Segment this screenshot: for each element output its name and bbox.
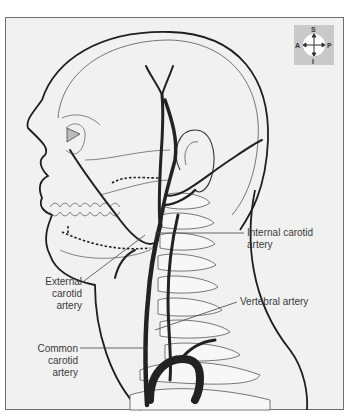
ear <box>176 130 214 192</box>
label-vertebral-artery: Vertebral artery <box>240 296 308 308</box>
zygomatic <box>85 150 170 195</box>
label-internal-carotid-artery: Internal carotid artery <box>247 227 313 251</box>
label-common-carotid-artery: Common carotid artery <box>26 343 78 379</box>
compass-inferior: I <box>312 58 314 65</box>
mandible <box>60 195 165 258</box>
label-external-carotid-artery: External carotid artery <box>30 276 82 312</box>
orientation-compass: S I A P <box>294 25 334 65</box>
compass-superior: S <box>311 26 316 33</box>
eye <box>67 128 80 142</box>
compass-anterior: A <box>295 42 300 49</box>
compass-posterior: P <box>327 42 332 49</box>
ear-inner <box>185 142 198 165</box>
